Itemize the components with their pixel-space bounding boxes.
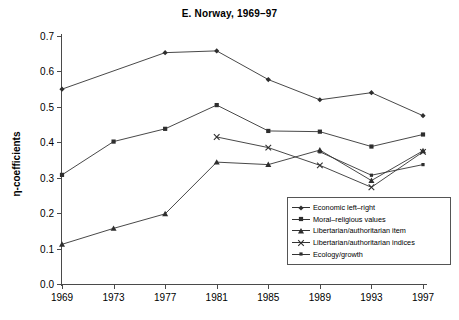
x-tick-mark	[62, 284, 63, 289]
x-tick-mark	[268, 284, 269, 289]
x-tick-label: 1981	[206, 292, 228, 303]
data-point-small-square	[370, 174, 373, 177]
legend-item-0[interactable]: Economic left–right	[291, 202, 446, 214]
data-point-square	[163, 127, 167, 131]
legend-label: Libertarian/authoritarian item	[311, 226, 406, 235]
chart-legend: Economic left–rightMoral–religious value…	[287, 197, 451, 265]
x-tick-label: 1985	[257, 292, 279, 303]
data-point-square	[215, 103, 219, 107]
data-point-diamond	[266, 77, 271, 82]
y-axis-label-host: η-coefficients	[18, 36, 32, 284]
y-tick-label: 0.3	[40, 172, 54, 183]
legend-item-3[interactable]: Libertarian/authoritarian indices	[291, 237, 446, 249]
data-point-square	[60, 173, 64, 177]
y-tick-label: 0.0	[40, 279, 54, 290]
legend-label: Libertarian/authoritarian indices	[311, 238, 415, 247]
legend-label: Moral–religious values	[311, 215, 386, 224]
y-axis-label: η-coefficients	[11, 131, 22, 196]
x-tick-mark	[371, 284, 372, 289]
series-1	[60, 103, 425, 177]
legend-item-1[interactable]: Moral–religious values	[291, 214, 446, 226]
data-point-diamond	[298, 205, 303, 210]
y-tick-label: 0.1	[40, 243, 54, 254]
series-line	[217, 137, 423, 187]
x-tick-label: 1969	[51, 292, 73, 303]
x-tick-label: 1989	[309, 292, 331, 303]
data-point-x	[369, 184, 375, 190]
series-0	[59, 48, 425, 118]
legend-marker-diamond-icon	[291, 203, 311, 213]
data-point-diamond	[214, 48, 219, 53]
data-point-diamond	[420, 113, 425, 118]
legend-marker-small-square-icon	[291, 249, 311, 259]
legend-marker-x-icon	[291, 238, 311, 248]
chart-title: E. Norway, 1969–97	[0, 8, 459, 19]
y-tick-label: 0.5	[40, 101, 54, 112]
legend-marker-triangle-icon	[291, 226, 311, 236]
series-4	[318, 150, 424, 177]
data-point-square	[369, 144, 373, 148]
data-point-triangle	[368, 178, 374, 183]
series-3	[214, 134, 426, 190]
series-line	[62, 51, 423, 116]
y-tick-label: 0.2	[40, 208, 54, 219]
data-point-small-square	[421, 163, 424, 166]
legend-label: Ecology/growth	[311, 250, 363, 259]
series-line	[62, 105, 423, 175]
x-tick-label: 1997	[412, 292, 434, 303]
chart-figure: E. Norway, 1969–97 η-coefficients 0.00.1…	[0, 0, 459, 320]
legend-item-2[interactable]: Libertarian/authoritarian item	[291, 225, 446, 237]
y-tick-label: 0.7	[40, 31, 54, 42]
x-tick-mark	[320, 284, 321, 289]
data-point-square	[266, 129, 270, 133]
legend-marker-square-icon	[291, 214, 311, 224]
data-point-square	[111, 139, 115, 143]
data-point-x	[317, 163, 323, 169]
data-point-diamond	[163, 50, 168, 55]
data-point-x	[298, 240, 304, 246]
x-tick-mark	[217, 284, 218, 289]
data-point-square	[421, 132, 425, 136]
data-point-diamond	[317, 97, 322, 102]
y-tick-label: 0.6	[40, 66, 54, 77]
x-tick-label: 1973	[102, 292, 124, 303]
legend-item-4[interactable]: Ecology/growth	[291, 248, 446, 260]
x-tick-mark	[423, 284, 424, 289]
x-tick-mark	[165, 284, 166, 289]
data-point-small-square	[299, 253, 302, 256]
x-tick-label: 1977	[154, 292, 176, 303]
data-point-small-square	[318, 150, 321, 153]
x-tick-mark	[114, 284, 115, 289]
data-point-triangle	[298, 228, 304, 233]
data-point-square	[299, 217, 303, 221]
x-tick-label: 1993	[360, 292, 382, 303]
data-point-square	[318, 130, 322, 134]
legend-label: Economic left–right	[311, 203, 375, 212]
data-point-diamond	[369, 90, 374, 95]
y-tick-label: 0.4	[40, 137, 54, 148]
